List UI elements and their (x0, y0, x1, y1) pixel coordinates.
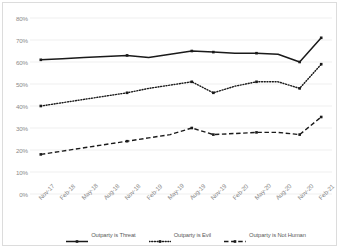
data-point-marker (126, 54, 129, 57)
legend-swatch-icon (66, 231, 88, 238)
data-point-marker (39, 59, 42, 62)
data-point-marker (320, 37, 323, 40)
data-point-marker (212, 51, 215, 54)
legend-item-label: Outparty is Evil (174, 232, 211, 238)
series-line-1 (41, 64, 321, 106)
data-point-marker (255, 52, 258, 55)
data-point-marker (212, 92, 215, 95)
data-point-marker (39, 105, 42, 108)
legend-swatch-icon (224, 231, 246, 238)
data-point-marker (190, 50, 193, 53)
data-point-marker (255, 81, 258, 84)
line-chart: 80%70%60%50%40%30%20%10%0% Nov-17Feb-18M… (0, 0, 340, 249)
data-point-marker (126, 92, 129, 95)
data-point-marker (190, 127, 193, 130)
data-point-marker (255, 131, 258, 134)
series-line-2 (41, 117, 321, 154)
legend-item[interactable]: Outparty is Evil (149, 231, 211, 238)
data-point-marker (298, 87, 301, 90)
x-axis: Nov-17Feb-18May-18Aug-18Nov-18Feb-19May-… (30, 196, 332, 226)
legend-item-label: Outparty is Threat (91, 232, 136, 238)
data-point-marker (39, 153, 42, 156)
series-line-0 (41, 38, 321, 62)
data-point-marker (320, 116, 323, 119)
legend-swatch-icon (149, 231, 171, 238)
data-point-marker (298, 133, 301, 136)
data-point-marker (212, 133, 215, 136)
chart-legend: Outparty is ThreatOutparty is EvilOutpar… (52, 228, 320, 241)
legend-item[interactable]: Outparty is Threat (66, 231, 136, 238)
data-point-marker (320, 63, 323, 66)
data-point-marker (190, 81, 193, 84)
data-point-marker (126, 140, 129, 143)
legend-item-label: Outparty is Not Human (249, 232, 306, 238)
legend-item[interactable]: Outparty is Not Human (224, 231, 306, 238)
data-point-marker (298, 61, 301, 64)
